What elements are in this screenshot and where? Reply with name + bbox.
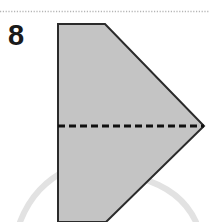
- origami-step-figure: 8: [0, 0, 209, 222]
- folded-paper-polygon: [58, 24, 204, 222]
- step-number-label: 8: [8, 21, 24, 50]
- figure-canvas: [0, 0, 209, 222]
- right-arc-icon: [140, 178, 196, 222]
